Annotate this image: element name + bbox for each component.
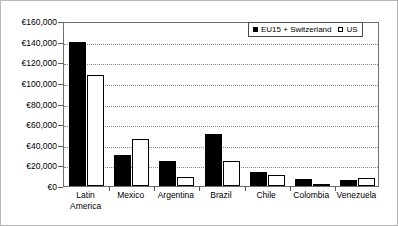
x-axis-category-label-line1: Mexico (108, 190, 153, 201)
bar-us (87, 75, 104, 186)
x-axis: LatinAmericaMexicoArgentinaBrazilChileCo… (63, 190, 379, 224)
bar-group (250, 23, 285, 186)
bar-group (340, 23, 375, 186)
y-axis-tick-mark (58, 187, 63, 188)
x-axis-category-label-line2: America (63, 201, 108, 212)
legend-swatch-filled-square-icon (253, 27, 258, 32)
x-axis-category-label-line1: Argentina (153, 190, 198, 201)
chart-legend: EU15 + SwitzerlandUS (248, 22, 363, 37)
bar-eu15-switzerland (114, 155, 131, 186)
legend-label: US (346, 25, 357, 34)
legend-entry: US (338, 25, 357, 34)
bar-us (177, 177, 194, 186)
x-axis-category-label: Mexico (108, 190, 153, 201)
y-axis-tick-label: €120,000 (1, 59, 57, 68)
y-axis-tick-label: €0 (1, 183, 57, 192)
x-axis-category-label: Argentina (153, 190, 198, 201)
y-axis-tick-label: €40,000 (1, 141, 57, 150)
y-axis-tick-label: €100,000 (1, 79, 57, 88)
y-axis-tick-label: €80,000 (1, 100, 57, 109)
x-axis-category-label: Chile (244, 190, 289, 201)
x-axis-category-label-line1: Chile (244, 190, 289, 201)
bar-eu15-switzerland (340, 180, 357, 186)
x-axis-category-label: LatinAmerica (63, 190, 108, 211)
bar-eu15-switzerland (295, 179, 312, 186)
plot-area (63, 22, 379, 187)
bar-us (358, 178, 375, 186)
y-axis-tick-label: €160,000 (1, 18, 57, 27)
legend-swatch-hollow-square-icon (338, 27, 343, 32)
bar-eu15-switzerland (159, 161, 176, 186)
y-axis-tick-label: €140,000 (1, 38, 57, 47)
x-axis-category-label-line1: Venezuela (334, 190, 379, 201)
x-axis-category-label-line1: Brazil (198, 190, 243, 201)
bar-eu15-switzerland (250, 172, 267, 186)
y-axis-tick-label: €60,000 (1, 121, 57, 130)
bar-group (69, 23, 104, 186)
bar-group (114, 23, 149, 186)
x-axis-category-label-line1: Latin (63, 190, 108, 201)
bar-eu15-switzerland (205, 134, 222, 186)
x-axis-category-label-line1: Colombia (289, 190, 334, 201)
x-axis-category-label: Colombia (289, 190, 334, 201)
y-axis: €0€20,000€40,000€60,000€80,000€100,000€1… (1, 1, 57, 226)
bar-group (295, 23, 330, 186)
legend-entry: EU15 + Switzerland (253, 25, 331, 34)
bar-us (223, 161, 240, 186)
bar-chart-figure: €0€20,000€40,000€60,000€80,000€100,000€1… (0, 0, 398, 226)
bar-group (205, 23, 240, 186)
bar-us (313, 184, 330, 186)
bar-group (159, 23, 194, 186)
legend-label: EU15 + Switzerland (261, 25, 331, 34)
bar-eu15-switzerland (69, 42, 86, 186)
x-axis-category-label: Brazil (198, 190, 243, 201)
y-axis-tick-label: €20,000 (1, 162, 57, 171)
bar-us (132, 139, 149, 186)
x-axis-category-label: Venezuela (334, 190, 379, 201)
bar-us (268, 175, 285, 186)
